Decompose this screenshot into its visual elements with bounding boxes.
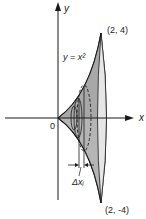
origin-label: 0	[50, 121, 55, 131]
curve-label: y = x²	[62, 52, 86, 62]
y-axis-label: y	[63, 3, 70, 14]
region-lower	[58, 118, 101, 203]
point-bottom-label: (2, -4)	[105, 205, 129, 215]
y-axis-arrow-icon	[55, 2, 61, 11]
delta-arrowhead-right-icon	[84, 163, 88, 167]
x-axis-arrow-icon	[125, 115, 134, 121]
region-under-curve	[58, 33, 101, 118]
solid-of-revolution-diagram: y x 0 y = x² (2, 4) (2, -4) Δxᵢ	[0, 0, 146, 219]
x-axis-label: x	[138, 112, 145, 123]
point-top-label: (2, 4)	[107, 25, 128, 35]
delta-x-label: Δxᵢ	[71, 177, 85, 187]
delta-pointer	[79, 167, 81, 176]
delta-arrowhead-left-icon	[75, 163, 79, 167]
